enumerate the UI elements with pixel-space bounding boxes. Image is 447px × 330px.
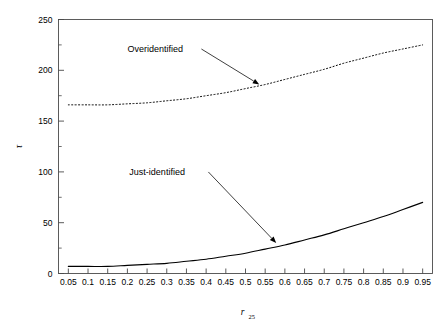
plot-frame bbox=[59, 20, 433, 274]
x-tick-label: 0.6 bbox=[279, 277, 291, 287]
y-tick-label: 50 bbox=[43, 218, 53, 228]
x-axis-title: r bbox=[241, 307, 245, 317]
series-line-just-identified bbox=[68, 202, 422, 266]
x-tick-label: 0.5 bbox=[240, 277, 252, 287]
annotation-label: Overidentified bbox=[127, 44, 183, 54]
x-tick-label: 0.8 bbox=[358, 277, 370, 287]
x-tick-label: 0.65 bbox=[296, 277, 313, 287]
x-axis-ticks: 0.050.10.150.20.250.30.350.40.450.50.550… bbox=[60, 269, 431, 287]
x-tick-label: 0.55 bbox=[257, 277, 274, 287]
x-axis-title-subscript: 25 bbox=[249, 313, 256, 320]
data-series bbox=[68, 45, 422, 267]
y-tick-label: 0 bbox=[48, 269, 53, 279]
y-tick-label: 150 bbox=[38, 116, 52, 126]
annotation-label: Just-identified bbox=[129, 167, 185, 177]
x-tick-label: 0.3 bbox=[161, 277, 173, 287]
x-tick-label: 0.1 bbox=[82, 277, 94, 287]
y-tick-label: 250 bbox=[38, 15, 52, 25]
x-tick-label: 0.25 bbox=[139, 277, 156, 287]
chart-canvas: 050100150200250 0.050.10.150.20.250.30.3… bbox=[0, 0, 447, 330]
x-tick-label: 0.05 bbox=[60, 277, 77, 287]
y-axis-ticks: 050100150200250 bbox=[38, 15, 64, 279]
x-tick-label: 0.35 bbox=[178, 277, 195, 287]
x-tick-label: 0.85 bbox=[375, 277, 392, 287]
x-tick-label: 0.2 bbox=[121, 277, 133, 287]
x-tick-label: 0.95 bbox=[414, 277, 431, 287]
y-axis-title: τ bbox=[14, 144, 24, 148]
annotation-arrowhead bbox=[252, 79, 259, 85]
x-tick-label: 0.7 bbox=[318, 277, 330, 287]
series-line-overidentified bbox=[68, 45, 422, 105]
x-tick-label: 0.4 bbox=[200, 277, 212, 287]
x-tick-label: 0.15 bbox=[99, 277, 116, 287]
chart-annotations: OveridentifiedJust-identified bbox=[127, 44, 276, 243]
x-tick-label: 0.45 bbox=[218, 277, 235, 287]
y-tick-label: 200 bbox=[38, 65, 52, 75]
x-tick-label: 0.75 bbox=[336, 277, 353, 287]
plot-border bbox=[59, 20, 433, 274]
x-tick-label: 0.9 bbox=[397, 277, 409, 287]
annotation-leader-line bbox=[208, 172, 271, 238]
annotation-leader-line bbox=[201, 49, 253, 81]
y-tick-label: 100 bbox=[38, 167, 52, 177]
chart-figure: 050100150200250 0.050.10.150.20.250.30.3… bbox=[0, 0, 447, 330]
